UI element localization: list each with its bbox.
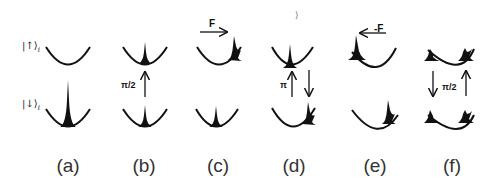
- spin-down-ket: |↓⟩: [22, 98, 38, 109]
- pulse-label-b: π/2: [121, 80, 135, 90]
- upper-displaced-wavepacket: [348, 35, 366, 60]
- spin-down-label: |↓⟩i: [22, 98, 40, 112]
- panel-label-e: (e): [363, 155, 386, 177]
- spin-up-label: |↑⟩i: [22, 40, 40, 54]
- panel-label-d: (d): [282, 155, 305, 177]
- upper-potential-well: [272, 47, 313, 65]
- wavepacket-peak: [60, 80, 76, 127]
- pulse-label-d: π: [280, 80, 287, 90]
- panel-e: [348, 33, 398, 129]
- lower-wavepacket: [209, 106, 223, 127]
- panel-label-f: (f): [443, 155, 461, 177]
- spin-up-subscript: i: [38, 46, 40, 54]
- panel-label-b: (b): [132, 155, 155, 177]
- upper-wavepacket: [138, 42, 152, 64]
- panel-c: [196, 32, 242, 127]
- force-label-e: -F: [374, 23, 383, 34]
- spin-up-ket: |↑⟩: [22, 40, 38, 51]
- panel-d: [272, 44, 316, 127]
- lower-wavepacket: [138, 105, 152, 127]
- spin-down-subscript: i: [38, 104, 40, 112]
- pulse-label-f: π/2: [442, 82, 456, 92]
- upper-left-wavepacket: [424, 49, 440, 61]
- force-label-c: F: [209, 18, 215, 29]
- stray-mark-d: ⟩: [295, 10, 299, 20]
- panel-label-a: (a): [56, 155, 79, 177]
- panel-a: [46, 47, 90, 127]
- panel-label-c: (c): [207, 155, 229, 177]
- upper-potential-well: [46, 47, 90, 65]
